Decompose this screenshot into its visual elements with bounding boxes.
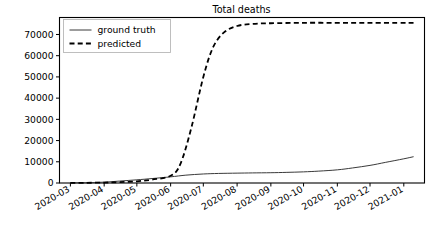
y-tick-label: 20000 <box>24 135 53 146</box>
y-tick-label: 30000 <box>24 114 53 125</box>
y-tick-label: 0 <box>48 177 54 188</box>
chart-title: Total deaths <box>211 4 270 15</box>
y-tick-label: 10000 <box>24 156 53 167</box>
y-axis: 010000200003000040000500006000070000 <box>24 29 59 189</box>
x-tick-label: 2020-08 <box>199 183 238 212</box>
series-line-ground-truth <box>70 157 413 183</box>
x-tick-label: 2020-05 <box>99 183 138 212</box>
x-tick-label: 2020-10 <box>266 183 305 212</box>
legend-label-ground-truth[interactable]: ground truth <box>98 24 156 35</box>
y-tick-label: 60000 <box>24 50 53 61</box>
x-tick-label: 2020-09 <box>233 183 272 212</box>
total-deaths-line-chart: Total deaths 010000200003000040000500006… <box>0 0 446 227</box>
y-tick-label: 50000 <box>24 71 53 82</box>
y-tick-label: 70000 <box>24 29 53 40</box>
x-tick-label: 2020-11 <box>300 183 339 212</box>
x-tick-label: 2020-07 <box>166 183 205 212</box>
figure-canvas: Total deaths 010000200003000040000500006… <box>0 0 446 227</box>
chart-legend[interactable]: ground truthpredicted <box>64 20 171 53</box>
x-axis: 2020-032020-042020-052020-062020-072020-… <box>33 183 405 212</box>
x-tick-label: 2020-06 <box>133 183 172 212</box>
legend-label-predicted[interactable]: predicted <box>98 38 142 49</box>
y-tick-label: 40000 <box>24 92 53 103</box>
x-tick-label: 2021-01 <box>366 183 405 212</box>
x-tick-label: 2020-12 <box>332 183 371 212</box>
x-tick-label: 2020-04 <box>66 183 105 212</box>
